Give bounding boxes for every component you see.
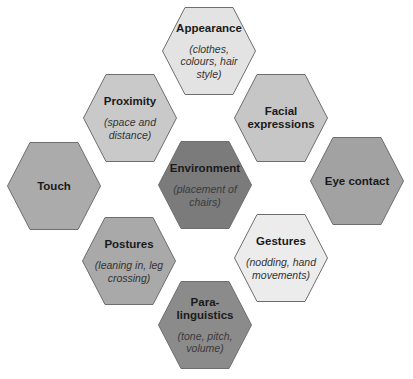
- hex-subtitle: (placement of chairs): [166, 183, 244, 208]
- hex-subtitle: (nodding, hand movements): [242, 256, 320, 281]
- nonverbal-communication-diagram: Appearance (clothes, colours, hair style…: [0, 0, 413, 379]
- hex-title: Facial expressions: [242, 105, 320, 131]
- hex-title: Environment: [170, 162, 240, 175]
- hex-title: Eye contact: [325, 175, 390, 188]
- hex-eye-contact: Eye contact: [310, 137, 404, 225]
- hex-title: Proximity: [104, 95, 156, 108]
- hex-subtitle: (leaning in, leg crossing): [90, 259, 168, 284]
- hex-title: Postures: [104, 238, 153, 251]
- hex-subtitle: (space and distance): [91, 116, 169, 141]
- hex-paralinguistics: Para- linguistics (tone, pitch, volume): [158, 281, 252, 369]
- hex-title: Touch: [37, 180, 71, 193]
- hex-subtitle: (tone, pitch, volume): [166, 330, 244, 355]
- hex-title: Para- linguistics: [177, 296, 234, 322]
- hex-title: Appearance: [176, 22, 242, 35]
- hex-title: Gestures: [256, 235, 306, 248]
